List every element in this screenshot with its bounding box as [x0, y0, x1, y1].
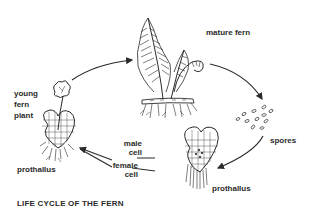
label-young-line3: plant — [14, 110, 38, 121]
label-young-fern-plant: young fern plant — [14, 88, 38, 121]
label-male-line1: male — [106, 139, 142, 148]
label-young-line2: fern — [14, 99, 38, 110]
label-female-line1: female — [100, 161, 138, 170]
arrow-young-to-mature — [72, 60, 132, 80]
label-male-cell: male cell — [106, 139, 142, 157]
arrow-spores-to-prothallus — [218, 136, 263, 168]
label-prothallus-left: prothallus — [17, 165, 56, 174]
mature-fern-illustration — [137, 18, 203, 118]
label-spores: spores — [270, 136, 296, 145]
diagram-artwork — [0, 0, 309, 217]
label-female-line2: cell — [100, 170, 138, 179]
label-female-cell: female cell — [100, 161, 138, 179]
diagram-title: LIFE CYCLE OF THE FERN — [17, 199, 124, 208]
spores-illustration — [236, 105, 274, 130]
label-male-line2: cell — [106, 148, 142, 157]
young-fern-plant-illustration — [40, 81, 76, 162]
label-prothallus-right: prothallus — [212, 184, 251, 193]
label-young-line1: young — [14, 88, 38, 99]
fern-life-cycle-diagram: mature fern spores prothallus male cell … — [0, 0, 309, 217]
label-mature-fern: mature fern — [206, 28, 250, 37]
prothallus-right-illustration — [185, 127, 219, 189]
arrow-mature-to-spores — [210, 64, 262, 99]
